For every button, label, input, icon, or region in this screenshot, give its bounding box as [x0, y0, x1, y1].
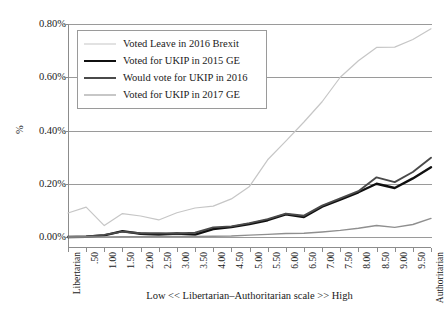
legend-line-swatch	[84, 90, 116, 100]
x-axis-tick-label: 5.00	[254, 252, 264, 269]
x-axis-tick-label: .50	[90, 252, 100, 264]
legend-line-swatch	[84, 39, 116, 49]
x-axis-tick-label: 2.00	[145, 252, 155, 269]
legend-line-swatch	[84, 56, 116, 66]
x-axis-title: Low << Libertarian–Authoritarian scale >…	[68, 290, 431, 301]
x-axis-tick-label: 7.50	[344, 252, 354, 269]
legend-line-swatch	[84, 73, 116, 83]
x-axis-tick-label: 4.00	[217, 252, 227, 269]
x-axis-tick-label: 6.00	[290, 252, 300, 269]
y-axis-tick-label: 0.60%	[24, 71, 66, 82]
x-axis-tick-label: 5.50	[272, 252, 282, 269]
x-axis-tick-label: 9.50	[417, 252, 427, 269]
legend-item[interactable]: Voted Leave in 2016 Brexit	[84, 35, 260, 52]
x-axis-tick-label: Libertarian	[72, 252, 82, 294]
x-axis-tick-labels: Libertarian.501.001.502.002.503.003.504.…	[68, 252, 431, 314]
chart-legend: Voted Leave in 2016 BrexitVoted for UKIP…	[77, 30, 267, 109]
y-axis-tick-labels: 0.00%0.20%0.40%0.60%0.80%	[20, 0, 66, 335]
y-axis-tick-label: 0.20%	[24, 178, 66, 189]
legend-item[interactable]: Voted for UKIP in 2015 GE	[84, 52, 260, 69]
x-axis-tick-label: 3.00	[181, 252, 191, 269]
legend-label: Voted for UKIP in 2015 GE	[123, 54, 240, 67]
x-axis-tick-label: 8.50	[381, 252, 391, 269]
x-axis-tick-label: 6.50	[308, 252, 318, 269]
x-axis-tick-label: 1.50	[126, 252, 136, 269]
legend-label: Voted Leave in 2016 Brexit	[123, 37, 239, 50]
x-axis-tick-label: 7.00	[326, 252, 336, 269]
y-axis-tick-label: 0.00%	[24, 231, 66, 242]
legend-label: Voted for UKIP in 2017 GE	[123, 88, 240, 101]
series-line-4	[68, 218, 431, 237]
legend-item[interactable]: Would vote for UKIP in 2016	[84, 69, 260, 86]
x-axis-tick-label: 9.00	[399, 252, 409, 269]
y-axis-tick-label: 0.80%	[24, 18, 66, 29]
x-axis-tick-label: 1.00	[108, 252, 118, 269]
x-axis-tick-label: 3.50	[199, 252, 209, 269]
x-axis-tick-mark	[431, 248, 432, 252]
x-axis-tick-label: 8.00	[362, 252, 372, 269]
x-axis-tick-label: 2.50	[163, 252, 173, 269]
legend-item[interactable]: Voted for UKIP in 2017 GE	[84, 86, 260, 103]
legend-label: Would vote for UKIP in 2016	[123, 71, 247, 84]
x-axis-tick-label: 4.50	[235, 252, 245, 269]
chart-figure: % 0.00%0.20%0.40%0.60%0.80% Voted Leave …	[0, 0, 444, 335]
y-axis-tick-label: 0.40%	[24, 125, 66, 136]
x-axis-tick-label: Authoritarian	[435, 252, 444, 303]
